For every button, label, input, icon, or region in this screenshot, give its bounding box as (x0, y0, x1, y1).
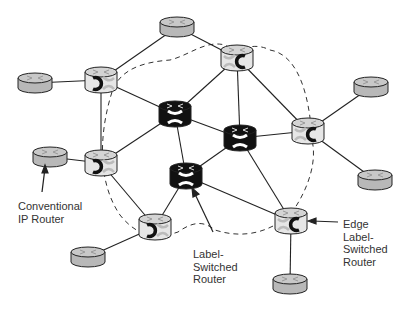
conventional-router-icon (358, 170, 392, 190)
edge-router-icon (221, 45, 253, 71)
core-router-icon (159, 101, 191, 127)
edge-router-icon (85, 67, 117, 93)
edge-router-icon (275, 208, 307, 234)
conventional-router-label: Conventional IP Router (18, 200, 82, 225)
conventional-router-icon (71, 247, 105, 267)
edge-router-icon (292, 118, 324, 144)
edge-router-icon (139, 214, 171, 240)
lsr-label: Label- Switched Router (193, 248, 238, 286)
conventional-router-icon (354, 77, 388, 97)
core-router-icon (224, 125, 256, 151)
conventional-router-icon (273, 274, 307, 294)
core-router-icon (170, 163, 202, 189)
conventional-router-icon (18, 73, 52, 93)
edge-lsr-label: Edge Label- Switched Router (343, 218, 388, 268)
conventional-router-icon (33, 147, 67, 167)
edge-router-icon (85, 150, 117, 176)
conventional-router-icon (160, 17, 194, 37)
